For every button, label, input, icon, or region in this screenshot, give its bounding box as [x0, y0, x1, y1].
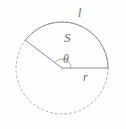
arc-length-label: l — [78, 7, 81, 19]
central-angle-label: θ — [63, 53, 69, 65]
sector-area-label: S — [64, 31, 71, 44]
radius-line-diagonal — [25, 40, 62, 68]
geometry-figure: l S θ r — [0, 0, 126, 129]
radius-label: r — [83, 71, 88, 83]
